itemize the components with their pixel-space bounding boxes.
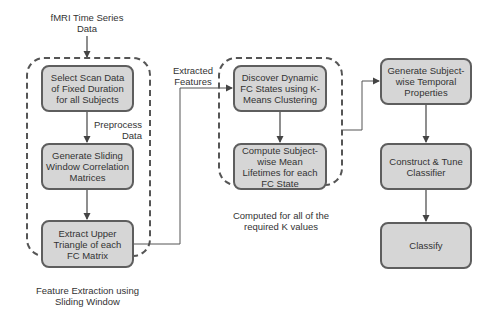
mean-lifetimes-box: Compute Subject-wise Mean Lifetimes for … [233,143,327,190]
extract-upper-triangle-box: Extract Upper Triangle of each FC Matrix [41,220,134,268]
discover-fc-states-box: Discover Dynamic FC States using K-Means… [233,65,327,112]
temporal-properties-box: Generate Subject-wise Temporal Propertie… [380,58,472,105]
flowchart-canvas: fMRI Time Series Data Select Scan Data o… [0,0,498,312]
feature-extraction-caption: Feature Extraction using Sliding Window [30,285,145,307]
sliding-window-box: Generate Sliding Window Correlation Matr… [41,143,134,190]
select-scan-data-box: Select Scan Data of Fixed Duration for a… [41,65,134,112]
construct-tune-classifier-box: Construct & Tune Classifier [380,143,472,190]
classify-box: Classify [380,222,472,269]
clustering-caption: Computed for all of the required K value… [226,210,336,232]
preprocess-data-label: Preprocess Data [90,119,142,141]
input-data-label: fMRI Time Series Data [43,12,131,34]
extracted-features-label: Extracted Features [166,65,220,87]
clustering-to-temporal-arrow [343,81,379,130]
